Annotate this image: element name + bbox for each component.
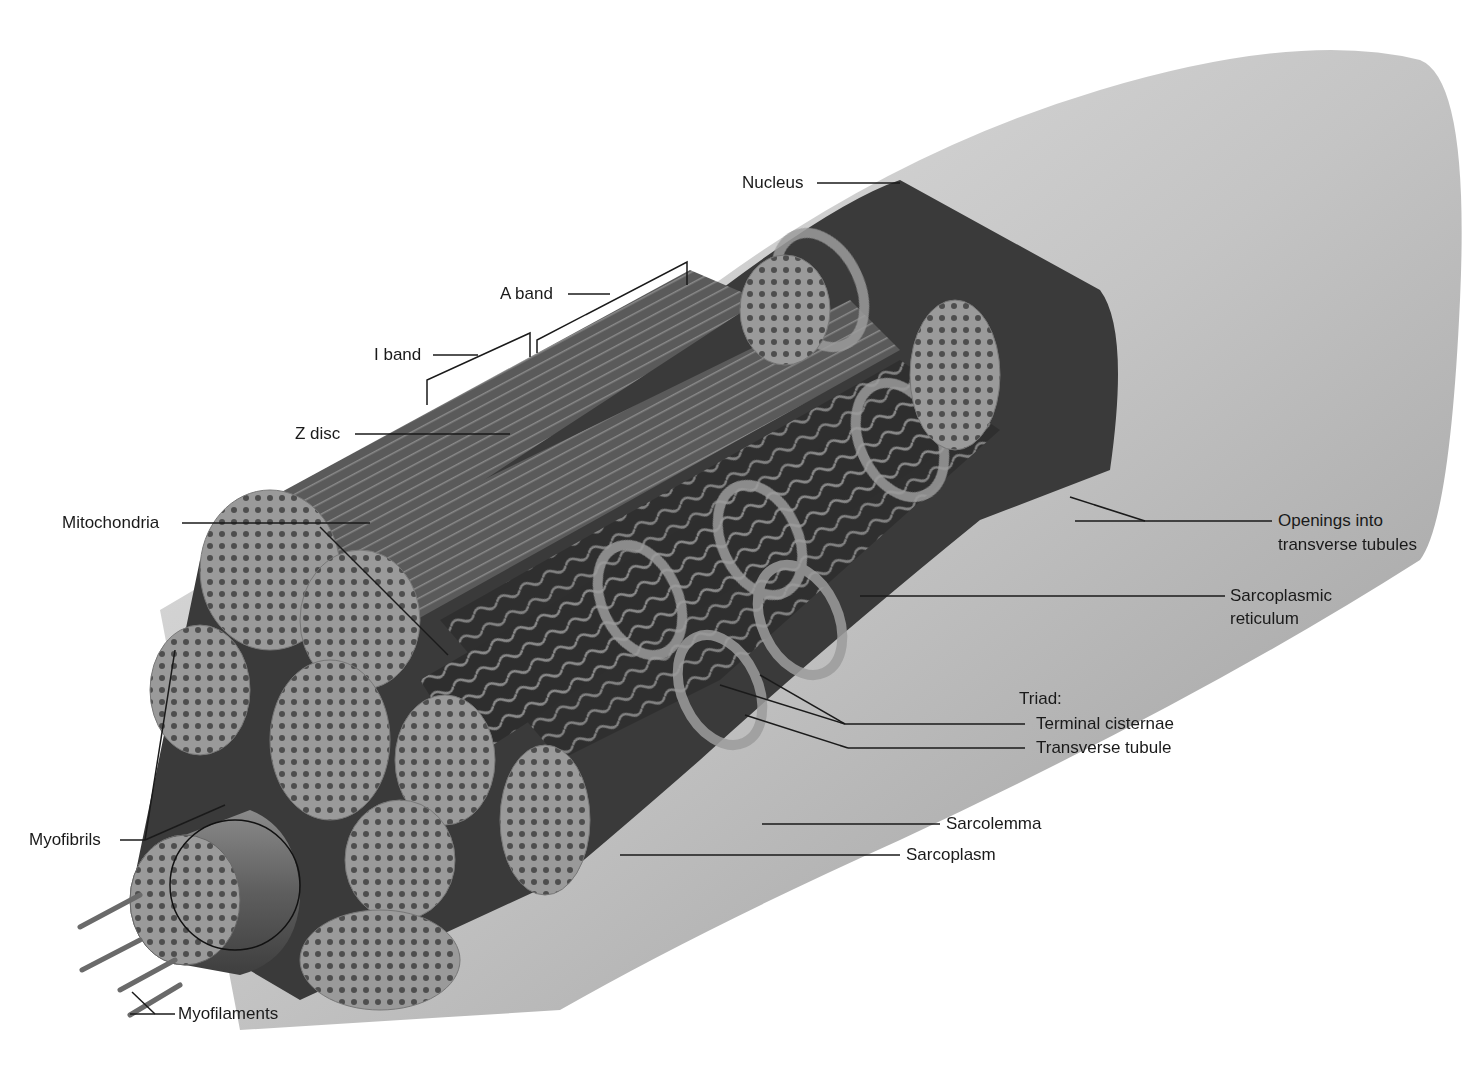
label-myofilaments: Myofilaments [178, 1004, 278, 1024]
label-sarcolemma: Sarcolemma [946, 814, 1041, 834]
label-sarcoplasm: Sarcoplasm [906, 845, 996, 865]
muscle-fiber-diagram: Nucleus A band I band Z disc Mitochondri… [0, 0, 1476, 1066]
label-mitochondria: Mitochondria [62, 513, 159, 533]
label-transverse-tubule: Transverse tubule [1036, 738, 1171, 758]
label-z-disc: Z disc [295, 424, 340, 444]
label-terminal-cisternae: Terminal cisternae [1036, 714, 1174, 734]
label-myofibrils: Myofibrils [29, 830, 101, 850]
label-sr-line2: reticulum [1230, 609, 1299, 629]
diagram-illustration [0, 0, 1476, 1066]
label-nucleus: Nucleus [742, 173, 803, 193]
label-a-band: A band [500, 284, 553, 304]
label-i-band: I band [374, 345, 421, 365]
label-openings-line1: Openings into [1278, 511, 1383, 531]
label-openings-line2: transverse tubules [1278, 535, 1417, 555]
label-sr-line1: Sarcoplasmic [1230, 586, 1332, 606]
label-triad: Triad: [1019, 689, 1062, 709]
